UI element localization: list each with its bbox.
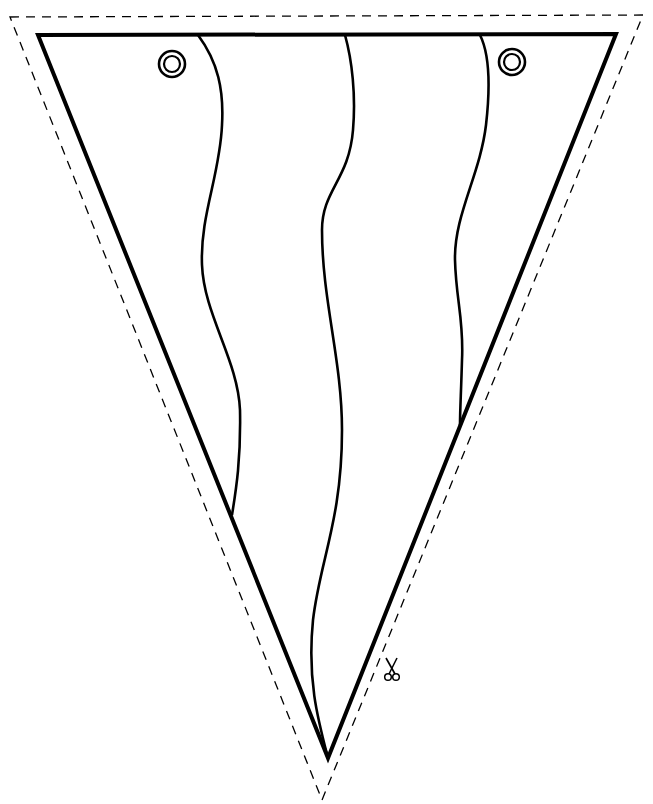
grommet-left-icon [159, 51, 185, 77]
pennant-outline [38, 34, 616, 758]
pennant-template [0, 0, 653, 804]
grommet-right-icon [499, 49, 525, 75]
scissors-icon [380, 656, 404, 684]
pennant-drawing [0, 0, 653, 804]
